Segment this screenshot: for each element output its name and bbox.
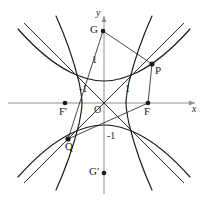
point-G-prime[interactable] (102, 171, 107, 176)
point-label-P: P (155, 65, 161, 76)
point-label-G-prime: G' (89, 166, 99, 177)
point-P[interactable] (149, 61, 154, 66)
point-label-Q: Q (65, 141, 73, 152)
segment-G-P (103, 31, 152, 64)
y-tick-one-label: 1 (92, 55, 97, 65)
y-axis-label: y (96, 8, 100, 18)
y-axis-arrow (102, 16, 107, 22)
points-group (63, 29, 155, 176)
point-label-F: F (144, 106, 150, 117)
x-tick-minus-one-label: -1 (79, 84, 87, 94)
diagram-svg (0, 0, 207, 204)
figure-canvas: x y O 1 -1 1 -1 G P F F' Q G' (0, 0, 207, 204)
point-label-G: G (90, 24, 98, 35)
x-axis-label: x (192, 104, 196, 114)
point-G[interactable] (101, 29, 106, 34)
point-label-F-prime: F' (59, 106, 67, 117)
origin-label: O (94, 105, 101, 115)
segment-P-F (148, 64, 152, 103)
x-tick-one-label: 1 (125, 84, 130, 94)
y-tick-minus-one-label: -1 (107, 131, 115, 141)
